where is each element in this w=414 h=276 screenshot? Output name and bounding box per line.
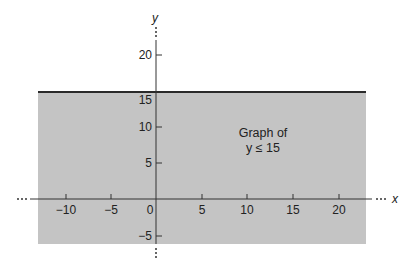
x-tick-label: 20 bbox=[332, 203, 346, 217]
y-tick-label: −5 bbox=[138, 229, 152, 243]
x-tick-label: −10 bbox=[56, 203, 77, 217]
y-axis-label: y bbox=[151, 11, 159, 25]
origin-label: 0 bbox=[147, 203, 154, 217]
x-axis-label: x bbox=[391, 192, 399, 206]
y-tick-label: 10 bbox=[139, 120, 153, 134]
x-axis-right-dots bbox=[376, 198, 386, 200]
y-axis-top-dots bbox=[155, 27, 157, 37]
chart-canvas: x y −10 −5 0 5 10 15 20 20 15 10 5 −5 Gr… bbox=[0, 0, 414, 276]
shaded-region bbox=[38, 92, 366, 244]
y-tick-label: 20 bbox=[139, 48, 153, 62]
x-tick-label: 5 bbox=[199, 203, 206, 217]
x-tick-label: 10 bbox=[240, 203, 254, 217]
annotation-line1: Graph of bbox=[239, 126, 288, 140]
y-axis-bottom-dots bbox=[155, 248, 157, 258]
y-tick-label: 5 bbox=[145, 156, 152, 170]
x-axis-left-dots bbox=[17, 198, 27, 200]
annotation-line2: y ≤ 15 bbox=[246, 141, 280, 155]
y-tick-label: 15 bbox=[139, 93, 153, 107]
x-tick-label: 15 bbox=[286, 203, 300, 217]
x-tick-label: −5 bbox=[104, 203, 118, 217]
